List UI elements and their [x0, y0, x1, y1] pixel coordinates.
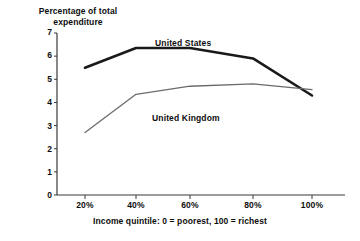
x-axis-tick-label: 80% [231, 200, 275, 210]
y-axis-tick-label: 0 [38, 191, 52, 200]
series-line-united-states [85, 48, 312, 95]
y-axis-tick-label: 7 [38, 28, 52, 37]
series-label-united-kingdom: United Kingdom [152, 113, 220, 123]
y-axis-tick-label: 1 [38, 168, 52, 177]
x-axis-tick-label: 60% [168, 200, 212, 210]
y-axis-tick-label: 3 [38, 122, 52, 131]
chart-container: Percentage of total expenditure 76543210… [0, 0, 360, 241]
series-line-united-kingdom [85, 84, 312, 133]
x-axis-caption: Income quintile: 0 = poorest, 100 = rich… [0, 216, 360, 226]
y-axis-tick-label: 6 [38, 51, 52, 60]
y-axis-tick-label: 5 [38, 75, 52, 84]
series-label-united-states: United States [155, 38, 211, 48]
x-axis-tick-label: 40% [114, 200, 158, 210]
y-axis-tick-label: 2 [38, 145, 52, 154]
y-axis-tick-label: 4 [38, 98, 52, 107]
x-tick-marks [85, 195, 312, 199]
x-axis-tick-label: 100% [290, 200, 334, 210]
x-axis-tick-label: 20% [63, 200, 107, 210]
